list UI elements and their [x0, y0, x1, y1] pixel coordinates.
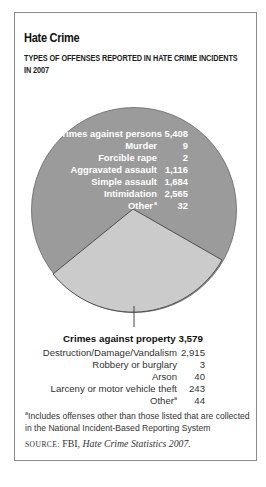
persons-row-value: 1,116: [165, 164, 188, 175]
property-row-value: 44: [194, 395, 205, 406]
source-label: SOURCE:: [25, 440, 60, 449]
persons-row-label: Murder: [125, 140, 157, 151]
property-row-value: 2,915: [181, 347, 205, 358]
persons-row-label: Simple assault: [91, 176, 157, 187]
footnote-text: Includes offenses other than those liste…: [25, 411, 250, 433]
property-row-value: 243: [189, 383, 205, 394]
property-row-label: Robbery or burglary: [92, 359, 177, 370]
property-row-label: Larceny or motor vehicle theft: [51, 383, 177, 394]
property-row-label: Destruction/Damage/Vandalism: [43, 347, 177, 358]
property-row: Robbery or burglary 3: [0, 359, 266, 371]
property-row: Arson 40: [0, 371, 266, 383]
property-title: Crimes against property 3,579: [0, 333, 266, 344]
source-publication: Hate Crime Statistics 2007.: [82, 438, 190, 449]
persons-row-value: 1,684: [165, 176, 189, 187]
persons-row-value: 2: [183, 152, 188, 163]
property-row-label: Othera: [150, 395, 177, 406]
property-row-label: Arson: [152, 371, 177, 382]
property-row: Destruction/Damage/Vandalism 2,915: [0, 347, 266, 359]
source-publisher: FBI,: [62, 438, 80, 449]
persons-row-label: Other: [128, 200, 153, 211]
persons-row-value: 32: [178, 200, 188, 211]
persons-row-value: 9: [183, 140, 188, 151]
property-row: Othera 44: [0, 395, 266, 407]
property-row: Larceny or motor vehicle theft 243: [0, 383, 266, 395]
persons-row-value: 2,565: [165, 188, 188, 199]
footnote-marker: a: [174, 395, 177, 401]
persons-row-label: Intimidation: [104, 188, 157, 199]
property-row-value: 40: [194, 371, 205, 382]
property-row-value: 3: [200, 359, 205, 370]
persons-row-label: Forcible rape: [98, 152, 157, 163]
persons-row-label: Aggravated assault: [71, 164, 158, 175]
footnote: aIncludes offenses other than those list…: [25, 410, 257, 434]
source-line: SOURCE: FBI, Hate Crime Statistics 2007.: [25, 438, 191, 449]
persons-title: Crimes against persons 5,408: [56, 128, 188, 139]
property-row-label-text: Other: [150, 395, 174, 406]
